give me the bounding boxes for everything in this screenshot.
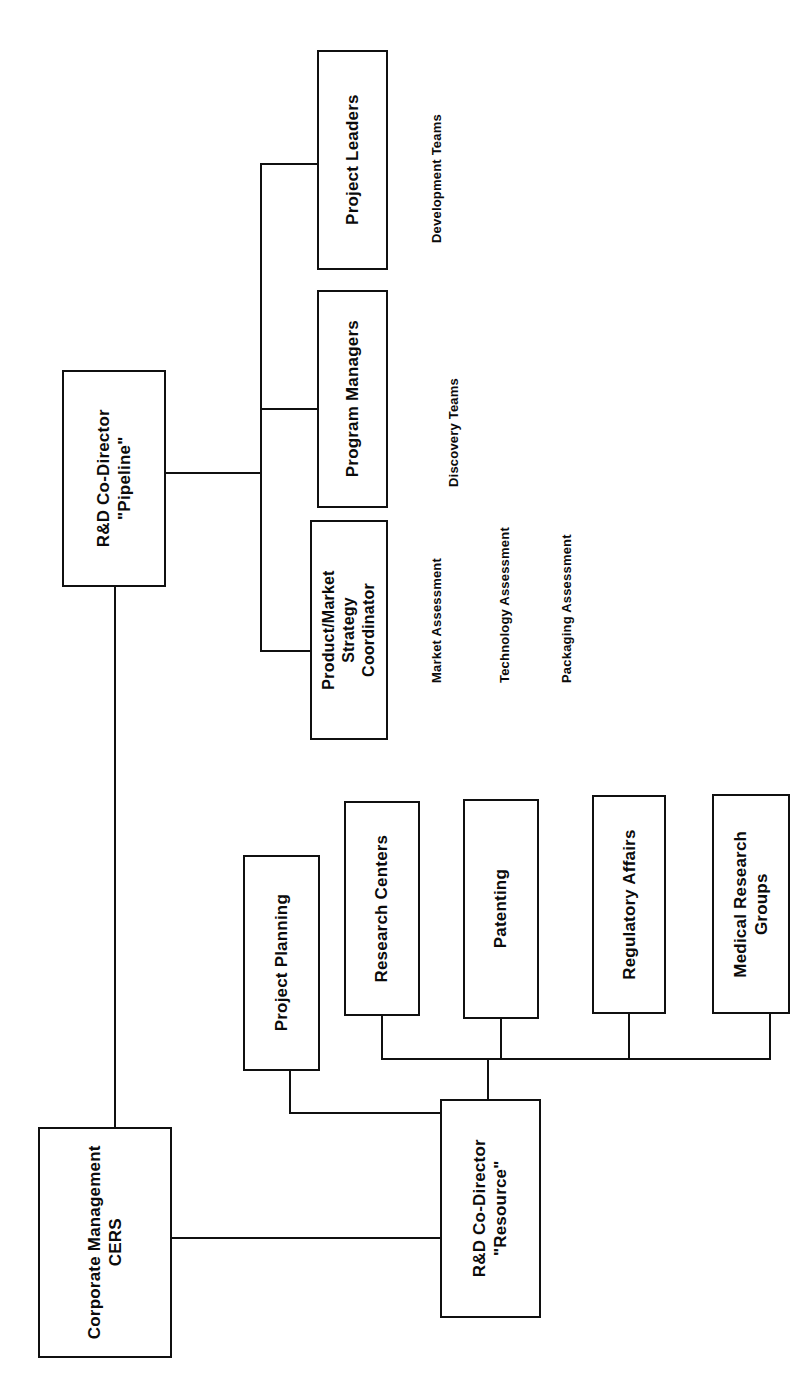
connector-bus-to-product-market xyxy=(260,650,317,652)
connector-bus-to-program-managers xyxy=(260,408,317,410)
resource-bus-horizontal xyxy=(381,1058,771,1060)
connector-research-centers-stub xyxy=(381,1015,383,1060)
connector-corporate-to-pipeline xyxy=(114,587,116,1129)
org-chart-page: Project Leaders Program Managers Product… xyxy=(0,0,810,1375)
node-label-project-planning: Project Planning xyxy=(271,894,292,1031)
annotation-discovery-teams: Discovery Teams xyxy=(446,378,461,487)
node-patenting[interactable]: Patenting xyxy=(463,799,539,1019)
node-label-research-centers: Research Centers xyxy=(371,835,392,983)
annotation-market-assessment: Market Assessment xyxy=(429,558,444,683)
node-project-planning[interactable]: Project Planning xyxy=(243,855,320,1071)
node-research-centers[interactable]: Research Centers xyxy=(344,801,420,1016)
node-label-project-leaders: Project Leaders xyxy=(342,95,363,226)
annotation-development-teams: Development Teams xyxy=(429,114,444,243)
connector-medical-stub xyxy=(769,1013,771,1060)
node-rd-co-director-pipeline[interactable]: R&D Co-Director"Pipeline" xyxy=(62,370,166,587)
annotation-packaging-assessment: Packaging Assessment xyxy=(559,534,574,683)
connector-bus-to-project-leaders xyxy=(260,163,317,165)
node-corporate-management[interactable]: Corporate ManagementCERS xyxy=(38,1127,172,1358)
connector-patenting-stub xyxy=(500,1018,502,1060)
connector-pipeline-to-bus xyxy=(166,472,262,474)
node-label-patenting: Patenting xyxy=(490,869,511,948)
node-label-rd-pipeline: R&D Co-Director"Pipeline" xyxy=(93,409,136,547)
connector-regulatory-stub xyxy=(628,1013,630,1060)
connector-corporate-to-resource xyxy=(172,1237,442,1239)
node-label-regulatory-affairs: Regulatory Affairs xyxy=(618,829,639,979)
node-label-rd-resource: R&D Co-Director"Resource" xyxy=(469,1139,512,1277)
node-medical-research-groups[interactable]: Medical ResearchGroups xyxy=(712,794,790,1014)
node-product-market-strategy-coordinator[interactable]: Product/MarketStrategyCoordinator xyxy=(310,520,388,740)
node-regulatory-affairs[interactable]: Regulatory Affairs xyxy=(592,795,666,1014)
node-label-corporate-management: Corporate ManagementCERS xyxy=(84,1146,127,1340)
node-label-medical-research-groups: Medical ResearchGroups xyxy=(730,831,773,978)
node-program-managers[interactable]: Program Managers xyxy=(317,290,388,508)
annotation-technology-assessment: Technology Assessment xyxy=(497,527,512,683)
node-project-leaders[interactable]: Project Leaders xyxy=(317,50,388,270)
connector-project-planning-stub xyxy=(289,1070,291,1114)
node-label-program-managers: Program Managers xyxy=(342,320,363,477)
node-rd-co-director-resource[interactable]: R&D Co-Director"Resource" xyxy=(440,1099,541,1318)
node-label-product-market: Product/MarketStrategyCoordinator xyxy=(319,570,379,689)
